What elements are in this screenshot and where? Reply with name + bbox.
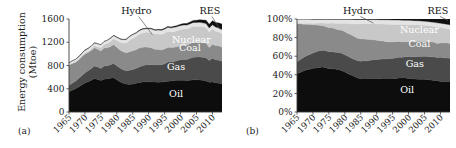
series-label-res: RES — [200, 5, 221, 16]
svg-text:100%: 100% — [267, 14, 293, 24]
svg-text:2010: 2010 — [195, 112, 218, 135]
svg-text:2010: 2010 — [423, 112, 446, 135]
series-label-coal: Coal — [408, 38, 430, 49]
series-label-gas: Gas — [167, 61, 185, 72]
svg-text:40%: 40% — [272, 70, 292, 80]
svg-text:400: 400 — [47, 84, 64, 94]
svg-text:20%: 20% — [272, 89, 292, 99]
series-label-hydro: Hydro — [121, 5, 152, 16]
svg-text:1600: 1600 — [42, 14, 65, 24]
svg-text:1200: 1200 — [42, 37, 65, 47]
panel-b-share: Share (%) (b) 0%20%40%60%80%100%19651970… — [228, 0, 456, 148]
svg-text:80%: 80% — [272, 33, 292, 43]
series-label-oil: Oil — [400, 84, 414, 95]
series-label-oil: Oil — [169, 88, 183, 99]
series-label-res: RES — [428, 5, 449, 16]
panel-a-plot: 0400800120016001965197019751980198519901… — [0, 0, 228, 148]
series-label-nuclear: Nuclear — [172, 34, 211, 45]
series-label-nuclear: Nuclear — [400, 24, 439, 35]
svg-text:800: 800 — [47, 61, 64, 71]
panel-a-energy-consumption: Energy consumption (Mtoe) (a) 0400800120… — [0, 0, 228, 148]
series-label-gas: Gas — [406, 58, 424, 69]
panel-b-plot: 0%20%40%60%80%100%1965197019751980198519… — [228, 0, 456, 148]
svg-text:60%: 60% — [272, 51, 292, 61]
figure-stacked-area-energy: Energy consumption (Mtoe) (a) 0400800120… — [0, 0, 456, 148]
series-label-hydro: Hydro — [343, 5, 374, 16]
